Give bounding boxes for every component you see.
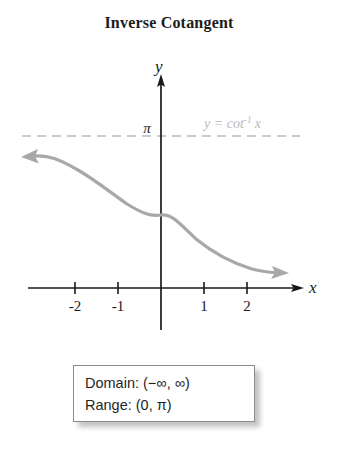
x-tick-label-neg1: -1: [112, 298, 125, 314]
caption-range: Range: (0, π): [85, 394, 254, 416]
caption-box: Domain: (−∞, ∞) Range: (0, π): [73, 365, 255, 422]
figure-container: Inverse Cotangent y x -2 -1 1 2 π: [0, 0, 338, 450]
x-tick-label-pos1: 1: [200, 298, 208, 314]
y-tick-label-pi: π: [143, 120, 151, 136]
caption-domain: Domain: (−∞, ∞): [85, 372, 254, 394]
x-tick-label-pos2: 2: [243, 298, 251, 314]
equation-lhs: y = cot: [202, 116, 245, 131]
inverse-cotangent-curve: [28, 156, 283, 273]
x-tick-label-neg2: -2: [69, 298, 82, 314]
x-axis-label: x: [308, 278, 317, 297]
equation-exponent: -1: [244, 115, 252, 125]
y-axis-label: y: [153, 57, 163, 76]
curve-equation-label: y = cot-1x: [202, 115, 262, 131]
equation-rhs: x: [254, 116, 262, 131]
